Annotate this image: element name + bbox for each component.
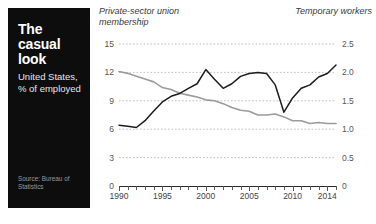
left-tick-label: 3 [92, 154, 114, 163]
right-tick-label: 0 [342, 182, 366, 191]
x-tick-label: 1995 [153, 192, 172, 201]
right-tick-label: 1.5 [342, 97, 366, 106]
left-axis-title: Private-sector union membership [99, 6, 219, 27]
right-tick-label: 2.0 [342, 68, 366, 77]
x-tick-label: 2000 [196, 192, 215, 201]
left-tick-label: 15 [92, 40, 114, 49]
x-tick-label: 2005 [240, 192, 259, 201]
right-tick-label: 1.0 [342, 125, 366, 134]
plot-area [119, 44, 336, 186]
left-tick-label: 0 [92, 182, 114, 191]
page-subtitle: United States, % of employed [18, 71, 88, 94]
left-tick-label: 9 [92, 97, 114, 106]
title-panel: The casual look United States, % of empl… [8, 8, 90, 208]
chart-container: Private-sector union membership Temporar… [92, 0, 376, 224]
screenshot-root: The casual look United States, % of empl… [0, 0, 376, 224]
right-axis-title: Temporary workers [262, 6, 372, 17]
right-tick-label: 2.5 [342, 40, 366, 49]
left-tick-label: 12 [92, 68, 114, 77]
source-note: Source: Bureau of Statistics [18, 175, 88, 192]
right-tick-label: 0.5 [342, 154, 366, 163]
left-tick-label: 6 [92, 125, 114, 134]
series-canvas [119, 44, 336, 186]
x-tick-label: 2010 [283, 192, 302, 201]
x-tick-label: 1990 [110, 192, 129, 201]
x-axis-ticks [119, 186, 336, 191]
page-title: The casual look [18, 22, 84, 67]
x-tick-label: 2014 [318, 192, 337, 201]
